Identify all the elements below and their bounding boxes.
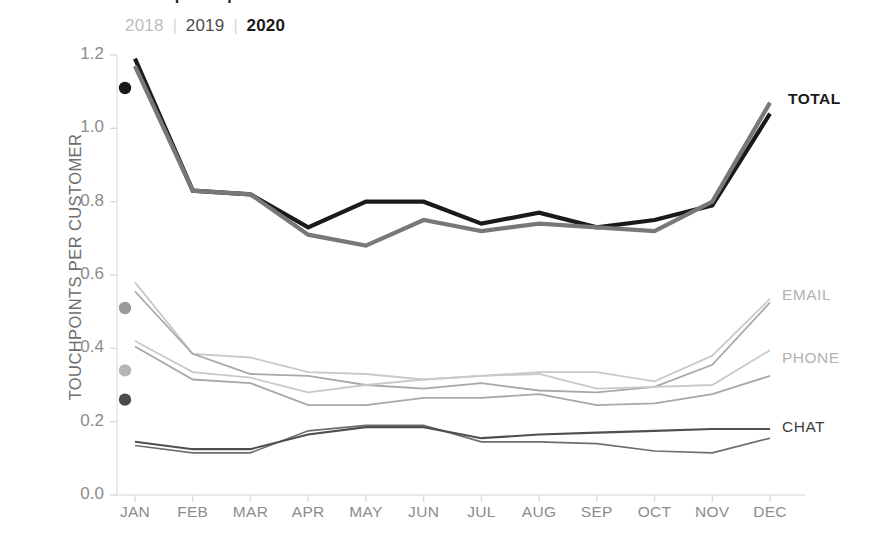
marker-dot-chat-2018 xyxy=(119,393,131,405)
series-label-total: TOTAL xyxy=(788,90,841,108)
x-tick-label-feb: FEB xyxy=(164,503,222,521)
y-tick-label: 1.0 xyxy=(58,117,104,137)
y-tick-label: 1.2 xyxy=(58,44,104,64)
y-tick-label: 0.6 xyxy=(58,264,104,284)
x-tick-label-apr: APR xyxy=(279,503,337,521)
x-tick-label-mar: MAR xyxy=(221,503,279,521)
x-tick-label-jan: JAN xyxy=(106,503,164,521)
marker-dot-email-2020 xyxy=(119,302,131,314)
marker-dot-phone-2020 xyxy=(119,364,131,376)
series-line-chat-2020 xyxy=(135,427,770,449)
x-tick-label-may: MAY xyxy=(337,503,395,521)
x-tick-label-jun: JUN xyxy=(395,503,453,521)
series-label-phone: PHONE xyxy=(782,349,840,367)
x-tick-label-jul: JUL xyxy=(452,503,510,521)
x-tick-label-sep: SEP xyxy=(568,503,626,521)
series-line-total-2020 xyxy=(135,59,770,228)
series-label-chat: CHAT xyxy=(782,418,825,436)
y-tick-label: 0.4 xyxy=(58,337,104,357)
series-label-email: EMAIL xyxy=(782,286,831,304)
x-tick-label-nov: NOV xyxy=(683,503,741,521)
chart-canvas: Touchpoints per customer 2018 | 2019 | 2… xyxy=(0,0,877,545)
marker-dot-total-2018 xyxy=(119,82,131,94)
series-line-total-2019 xyxy=(135,66,770,246)
x-tick-label-dec: DEC xyxy=(741,503,799,521)
y-tick-label: 0.0 xyxy=(58,484,104,504)
plot-area xyxy=(0,0,877,545)
x-tick-label-aug: AUG xyxy=(510,503,568,521)
y-tick-label: 0.2 xyxy=(58,411,104,431)
y-tick-label: 0.8 xyxy=(58,191,104,211)
x-tick-label-oct: OCT xyxy=(626,503,684,521)
